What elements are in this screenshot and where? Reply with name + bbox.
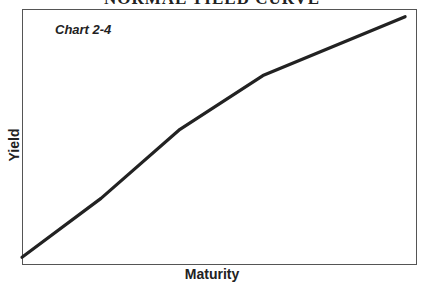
y-axis-label: Yield xyxy=(6,125,22,165)
yield-curve-line xyxy=(22,17,405,258)
x-axis-label: Maturity xyxy=(0,266,424,282)
yield-curve-plot xyxy=(0,0,424,283)
chart-number-label: Chart 2-4 xyxy=(55,22,111,37)
